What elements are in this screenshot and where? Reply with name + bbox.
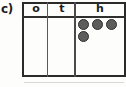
worksheet-item: c) o t h [0, 0, 126, 87]
counter-dot[interactable] [106, 19, 117, 30]
column-cell-tens[interactable] [49, 18, 75, 75]
scan-artifact-line [24, 82, 124, 83]
place-value-table: o t h [22, 2, 126, 77]
counter-dot[interactable] [92, 19, 103, 30]
counter-dot[interactable] [78, 19, 89, 30]
column-cell-hundreds[interactable] [76, 18, 124, 75]
item-label: c) [1, 1, 19, 17]
column-header-hundreds: h [76, 2, 124, 16]
column-header-ones: o [24, 2, 48, 16]
counter-row [78, 19, 117, 30]
counter-dot[interactable] [78, 31, 89, 42]
column-cell-ones[interactable] [24, 18, 48, 75]
table-border-right [124, 2, 126, 77]
column-header-tens: t [49, 2, 75, 16]
counter-row [78, 31, 89, 42]
